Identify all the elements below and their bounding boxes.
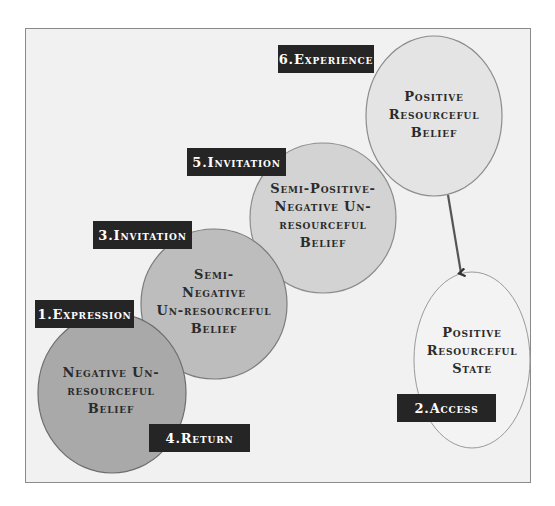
node-semi-negative-text: Semi- Negative Un-resourceful Belief xyxy=(141,266,287,338)
label-invitation-5: 5.Invitation xyxy=(187,148,286,176)
text-line: Belief xyxy=(141,320,287,338)
text-line: Semi-Positive- xyxy=(250,180,396,198)
text-line: Negative xyxy=(141,284,287,302)
text-line: Belief xyxy=(366,124,502,142)
label-invitation-3: 3.Invitation xyxy=(93,221,192,249)
text-line: Belief xyxy=(38,400,184,418)
text-line: Negative Un- xyxy=(38,364,184,382)
node-positive-belief-text: Positive Resourceful Belief xyxy=(366,88,502,142)
arrow-to-positive-state xyxy=(448,195,461,273)
text-line: Negative Un- xyxy=(250,198,396,216)
node-semi-positive-text: Semi-Positive- Negative Un- resourceful … xyxy=(250,180,396,252)
text-line: Un-resourceful xyxy=(141,302,287,320)
diagram-canvas xyxy=(0,0,555,506)
text-line: resourceful xyxy=(250,216,396,234)
text-line: resourceful xyxy=(38,382,184,400)
label-return: 4.Return xyxy=(149,424,250,452)
text-line: Positive xyxy=(366,88,502,106)
text-line: Resourceful xyxy=(366,106,502,124)
node-negative-text: Negative Un- resourceful Belief xyxy=(38,364,184,418)
text-line: Resourceful xyxy=(414,342,530,360)
text-line: Positive xyxy=(414,324,530,342)
node-positive-state-text: Positive Resourceful State xyxy=(414,324,530,378)
label-access: 2.Access xyxy=(397,394,496,422)
text-line: State xyxy=(414,360,530,378)
label-expression: 1.Expression xyxy=(35,300,134,328)
label-experience: 6.Experience xyxy=(278,45,374,73)
text-line: Belief xyxy=(250,234,396,252)
text-line: Semi- xyxy=(141,266,287,284)
